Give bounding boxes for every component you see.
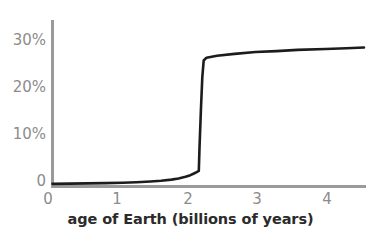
x-tick-label-3: 3 xyxy=(252,192,262,207)
x-axis-title: age of Earth (billions of years) xyxy=(0,212,381,227)
chart-container: 30% 20% 10% 0 0 1 2 3 4 age of Earth (bi… xyxy=(0,0,381,244)
y-tick-label-20: 20% xyxy=(6,80,46,95)
data-series-line xyxy=(53,48,365,184)
y-tick-label-0: 0 xyxy=(6,174,46,189)
x-tick-label-0: 0 xyxy=(43,192,53,207)
x-tick-label-2: 2 xyxy=(183,192,193,207)
y-tick-label-30: 30% xyxy=(6,33,46,48)
y-tick-label-10: 10% xyxy=(6,127,46,142)
x-tick-label-4: 4 xyxy=(322,192,332,207)
x-tick-label-1: 1 xyxy=(112,192,122,207)
